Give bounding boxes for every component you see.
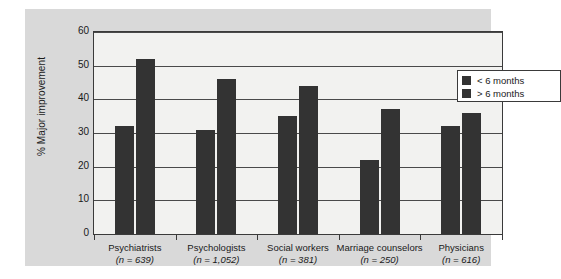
bar <box>217 79 236 234</box>
x-tick-mark <box>94 235 95 240</box>
x-tick-mark <box>257 235 258 240</box>
gridline <box>94 99 502 100</box>
legend-swatch-icon <box>462 89 471 98</box>
gridline <box>94 234 502 235</box>
bar <box>299 86 318 234</box>
legend: < 6 months > 6 months <box>457 70 561 102</box>
x-category-name: Physicians <box>412 242 510 254</box>
legend-item: < 6 months <box>462 74 556 86</box>
y-tick-label: 60 <box>49 26 89 36</box>
y-tick-label: 10 <box>49 194 89 204</box>
bar <box>381 109 400 234</box>
bar <box>360 160 379 234</box>
y-tick-label: 40 <box>49 93 89 103</box>
chart-panel: % Major improvement 0102030405060 < 6 mo… <box>25 9 491 266</box>
x-category-sample-size: (n = 616) <box>412 254 510 266</box>
y-axis-ticks: 0102030405060 <box>45 31 89 235</box>
y-tick-label: 20 <box>49 161 89 171</box>
bar <box>441 126 460 234</box>
legend-swatch-icon <box>462 76 471 85</box>
plot-area: < 6 months > 6 months <box>93 31 503 235</box>
y-tick-label: 50 <box>49 60 89 70</box>
y-tick-label: 0 <box>49 228 89 238</box>
x-tick-mark <box>420 235 421 240</box>
bar <box>278 116 297 234</box>
legend-item: > 6 months <box>462 87 556 99</box>
gridline <box>94 32 502 33</box>
legend-item-label: > 6 months <box>477 88 524 99</box>
bar <box>462 113 481 234</box>
legend-item-label: < 6 months <box>477 75 524 86</box>
gridline <box>94 66 502 67</box>
bar <box>136 59 155 234</box>
x-tick-mark <box>502 235 503 240</box>
bar <box>115 126 134 234</box>
x-category-label: Physicians(n = 616) <box>412 242 510 265</box>
y-tick-label: 30 <box>49 127 89 137</box>
x-tick-mark <box>176 235 177 240</box>
x-tick-mark <box>339 235 340 240</box>
bar <box>196 130 215 234</box>
